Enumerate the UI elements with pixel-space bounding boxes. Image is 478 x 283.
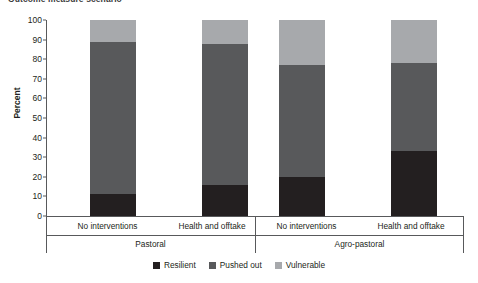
y-tick-mark bbox=[43, 196, 46, 197]
legend-label: Pushed out bbox=[220, 260, 262, 270]
bar-segment-pushed-out bbox=[90, 42, 136, 195]
y-tick-mark bbox=[43, 98, 46, 99]
y-tick-label: 20 bbox=[33, 172, 42, 182]
bar-segment-vulnerable bbox=[202, 20, 248, 44]
x-axis-category-band: No interventionsHealth and offtakeNo int… bbox=[46, 217, 464, 236]
bar-segment-resilient bbox=[90, 194, 136, 216]
legend-label: Vulnerable bbox=[286, 260, 325, 270]
y-tick-mark bbox=[43, 59, 46, 60]
bar-segment-resilient bbox=[391, 151, 437, 216]
stacked-bar-chart: Outcome measure scenario Percent 0102030… bbox=[0, 0, 478, 283]
y-tick-label: 10 bbox=[33, 191, 42, 201]
legend-swatch-icon bbox=[209, 262, 216, 269]
bar bbox=[391, 20, 437, 216]
x-axis-group-label: Pastoral bbox=[46, 235, 255, 253]
y-tick-mark bbox=[43, 157, 46, 158]
legend-item[interactable]: Resilient bbox=[153, 260, 196, 270]
bar-segment-resilient bbox=[279, 177, 325, 216]
bar-segment-vulnerable bbox=[279, 20, 325, 65]
legend-swatch-icon bbox=[153, 262, 160, 269]
y-tick-label: 90 bbox=[33, 35, 42, 45]
y-axis-line bbox=[46, 20, 47, 216]
x-axis-group-label: Agro-pastoral bbox=[255, 235, 464, 253]
y-tick-mark bbox=[43, 39, 46, 40]
y-axis-label: Percent bbox=[12, 73, 22, 133]
y-tick-label: 0 bbox=[37, 211, 42, 221]
y-tick-label: 70 bbox=[33, 74, 42, 84]
bar bbox=[90, 20, 136, 216]
y-tick-label: 80 bbox=[33, 54, 42, 64]
bar-segment-pushed-out bbox=[391, 63, 437, 151]
bar bbox=[202, 20, 248, 216]
y-tick-mark bbox=[43, 137, 46, 138]
x-axis-category-label: No interventions bbox=[255, 217, 358, 235]
legend-label: Resilient bbox=[164, 260, 196, 270]
y-tick-mark bbox=[43, 20, 46, 21]
legend-swatch-icon bbox=[275, 262, 282, 269]
bar-segment-resilient bbox=[202, 185, 248, 216]
x-axis-group-band: PastoralAgro-pastoral bbox=[46, 235, 464, 253]
bar-segment-vulnerable bbox=[90, 20, 136, 42]
y-tick-label: 100 bbox=[28, 15, 42, 25]
legend-item[interactable]: Vulnerable bbox=[275, 260, 325, 270]
x-axis-category-label: Health and offtake bbox=[169, 217, 255, 235]
y-tick-label: 50 bbox=[33, 113, 42, 123]
y-tick-label: 60 bbox=[33, 93, 42, 103]
bar-segment-pushed-out bbox=[202, 44, 248, 185]
x-axis-category-label: No interventions bbox=[46, 217, 169, 235]
chart-title: Outcome measure scenario bbox=[8, 0, 122, 4]
bar bbox=[279, 20, 325, 216]
y-tick-label: 30 bbox=[33, 152, 42, 162]
chart-legend: ResilientPushed outVulnerable bbox=[0, 260, 478, 270]
bar-segment-pushed-out bbox=[279, 65, 325, 177]
y-tick-mark bbox=[43, 118, 46, 119]
x-axis-category-label: Health and offtake bbox=[358, 217, 464, 235]
legend-item[interactable]: Pushed out bbox=[209, 260, 262, 270]
y-tick-mark bbox=[43, 78, 46, 79]
y-tick-mark bbox=[43, 176, 46, 177]
bar-segment-vulnerable bbox=[391, 20, 437, 63]
y-tick-label: 40 bbox=[33, 133, 42, 143]
plot-area: 0102030405060708090100 bbox=[46, 20, 464, 216]
